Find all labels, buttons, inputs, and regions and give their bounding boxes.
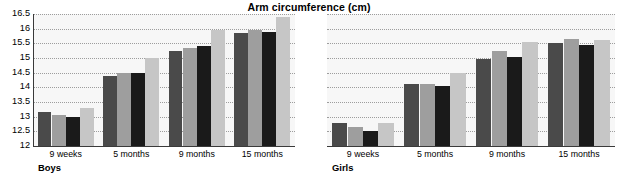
bar	[80, 108, 94, 146]
panel-label-boys: Boys	[38, 163, 61, 172]
y-tick-label: 16	[20, 24, 30, 33]
x-tick-label: 5 months	[417, 150, 453, 159]
bar	[363, 131, 378, 146]
plot-area-boys	[33, 14, 295, 146]
bar	[404, 84, 419, 146]
bar	[276, 17, 290, 146]
bar	[103, 76, 117, 146]
y-tick-label: 13	[20, 112, 30, 121]
bar	[378, 123, 393, 146]
y-tick-label: 15.5	[12, 39, 30, 48]
bar	[262, 32, 276, 146]
y-tick-label: 15	[20, 53, 30, 62]
y-axis-line	[33, 14, 34, 147]
y-tick-label: 13.5	[12, 97, 30, 106]
bar	[38, 112, 52, 146]
bar	[476, 59, 491, 146]
bar	[117, 73, 131, 146]
x-tick-label: 9 weeks	[50, 150, 82, 159]
bar	[348, 127, 363, 146]
y-tick-label: 14.5	[12, 68, 30, 77]
bar	[594, 40, 609, 146]
y-tick-label: 14	[20, 83, 30, 92]
bars-boys	[33, 14, 295, 146]
x-axis-tick-labels-girls: 9 weeks5 months9 months15 months	[327, 150, 615, 164]
bar	[564, 39, 579, 146]
bar	[197, 46, 211, 146]
bar	[548, 43, 563, 146]
y-tick-label: 12	[20, 141, 30, 150]
plot-area-girls	[327, 14, 615, 146]
bar	[66, 117, 80, 146]
bars-girls	[327, 14, 615, 146]
bar	[145, 58, 159, 146]
arm-circumference-chart: Arm circumference (cm) BangladeshiPakist…	[0, 0, 618, 187]
x-tick-label: 9 months	[179, 150, 215, 159]
bar	[131, 73, 145, 146]
x-axis-line-boys	[33, 146, 295, 147]
bar	[169, 51, 183, 146]
y-tick-label: 12.5	[12, 127, 30, 136]
bar	[183, 48, 197, 146]
bar	[248, 30, 262, 146]
bar	[492, 51, 507, 146]
bar	[522, 42, 537, 146]
x-axis-tick-labels-boys: 9 weeks5 months9 months15 months	[33, 150, 295, 164]
x-tick-label: 15 months	[242, 150, 283, 159]
bar	[450, 73, 465, 146]
x-tick-label: 5 months	[113, 150, 149, 159]
bar	[420, 84, 435, 146]
chart-title: Arm circumference (cm)	[0, 1, 618, 13]
x-tick-label: 9 months	[489, 150, 525, 159]
bar	[234, 33, 248, 146]
bar	[507, 57, 522, 146]
bar	[579, 45, 594, 146]
bar	[332, 123, 347, 146]
x-tick-label: 9 weeks	[347, 150, 379, 159]
y-axis-tick-labels: 16.51615.51514.51413.51312.512	[0, 14, 30, 146]
panel-label-girls: Girls	[332, 163, 353, 172]
bar	[435, 86, 450, 146]
x-tick-label: 15 months	[558, 150, 599, 159]
bar	[52, 115, 66, 146]
x-axis-line-girls	[327, 146, 615, 147]
y-tick-label: 16.5	[12, 9, 30, 18]
bar	[211, 30, 225, 146]
